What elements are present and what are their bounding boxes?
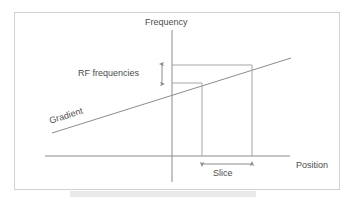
slice-label: Slice bbox=[213, 168, 233, 179]
position-axis-label: Position bbox=[296, 160, 328, 171]
frequency-axis-label: Frequency bbox=[145, 17, 188, 28]
rf-frequencies-label: RF frequencies bbox=[78, 68, 139, 79]
figure-page: Frequency Position RF frequencies Slice … bbox=[0, 0, 360, 206]
diagram-canvas bbox=[0, 0, 360, 206]
